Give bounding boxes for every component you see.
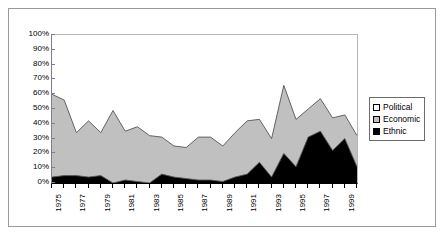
x-tick-mark xyxy=(51,184,52,188)
x-tick-label: 1991 xyxy=(250,194,258,212)
chart-legend: PoliticalEconomicEthnic xyxy=(369,97,425,141)
y-tick-label: 70% xyxy=(13,74,49,82)
x-tick-mark xyxy=(185,184,186,188)
x-tick-label: 1975 xyxy=(55,194,63,212)
x-tick-mark xyxy=(63,184,64,188)
y-tick-mark xyxy=(51,78,55,79)
y-tick-mark xyxy=(51,182,55,183)
plot-area xyxy=(51,34,358,184)
y-tick-label: 10% xyxy=(13,163,49,171)
x-tick-label: 1979 xyxy=(104,194,112,212)
y-tick-mark xyxy=(51,64,55,65)
legend-label: Economic xyxy=(383,115,420,124)
legend-swatch-icon xyxy=(373,128,380,135)
legend-swatch-icon xyxy=(373,116,380,123)
x-tick-mark xyxy=(100,184,101,188)
x-tick-mark xyxy=(307,184,308,188)
y-tick-mark xyxy=(51,49,55,50)
y-tick-label: 40% xyxy=(13,119,49,127)
x-tick-label: 1981 xyxy=(128,194,136,212)
x-tick-label: 1983 xyxy=(153,194,161,212)
x-tick-label: 1987 xyxy=(201,194,209,212)
y-tick-mark xyxy=(51,138,55,139)
x-tick-mark xyxy=(295,184,296,188)
x-tick-mark xyxy=(271,184,272,188)
x-tick-label: 1997 xyxy=(323,194,331,212)
x-tick-mark xyxy=(283,184,284,188)
y-tick-label: 90% xyxy=(13,45,49,53)
y-tick-label: 0% xyxy=(13,178,49,186)
legend-item[interactable]: Political xyxy=(373,101,420,113)
legend-item[interactable]: Economic xyxy=(373,113,420,125)
figure-frame: 100%90%80%70%60%50%40%30%20%10%0% 197519… xyxy=(8,8,436,227)
x-tick-mark xyxy=(124,184,125,188)
x-tick-mark xyxy=(222,184,223,188)
x-tick-label: 1989 xyxy=(226,194,234,212)
x-axis: 1975197719791981198319851987198919911993… xyxy=(51,184,361,228)
x-tick-label: 1993 xyxy=(275,194,283,212)
x-tick-mark xyxy=(356,184,357,188)
x-tick-mark xyxy=(234,184,235,188)
y-tick-mark xyxy=(51,34,55,35)
x-tick-mark xyxy=(149,184,150,188)
y-tick-label: 20% xyxy=(13,148,49,156)
x-tick-mark xyxy=(75,184,76,188)
x-tick-mark xyxy=(344,184,345,188)
x-tick-label: 1995 xyxy=(299,194,307,212)
x-tick-mark xyxy=(246,184,247,188)
y-tick-label: 100% xyxy=(13,30,49,38)
x-tick-mark xyxy=(88,184,89,188)
y-tick-label: 50% xyxy=(13,104,49,112)
x-tick-label: 1999 xyxy=(348,194,356,212)
y-tick-mark xyxy=(51,93,55,94)
x-tick-mark xyxy=(258,184,259,188)
legend-swatch-icon xyxy=(373,104,380,111)
legend-item[interactable]: Ethnic xyxy=(373,125,420,137)
x-tick-label: 1977 xyxy=(79,194,87,212)
y-tick-label: 60% xyxy=(13,89,49,97)
x-tick-mark xyxy=(210,184,211,188)
y-tick-mark xyxy=(51,123,55,124)
plot-svg xyxy=(52,35,357,183)
x-tick-mark xyxy=(319,184,320,188)
x-tick-label: 1985 xyxy=(177,194,185,212)
legend-label: Political xyxy=(383,103,412,112)
y-axis: 100%90%80%70%60%50%40%30%20%10%0% xyxy=(9,34,49,182)
y-tick-label: 80% xyxy=(13,60,49,68)
x-tick-mark xyxy=(197,184,198,188)
y-tick-mark xyxy=(51,167,55,168)
x-tick-mark xyxy=(173,184,174,188)
x-tick-mark xyxy=(161,184,162,188)
x-tick-mark xyxy=(112,184,113,188)
stacked-area-chart: 100%90%80%70%60%50%40%30%20%10%0% 197519… xyxy=(9,9,437,228)
y-tick-mark xyxy=(51,152,55,153)
y-tick-label: 30% xyxy=(13,134,49,142)
x-tick-mark xyxy=(332,184,333,188)
y-tick-mark xyxy=(51,108,55,109)
x-tick-mark xyxy=(136,184,137,188)
legend-label: Ethnic xyxy=(383,127,407,136)
